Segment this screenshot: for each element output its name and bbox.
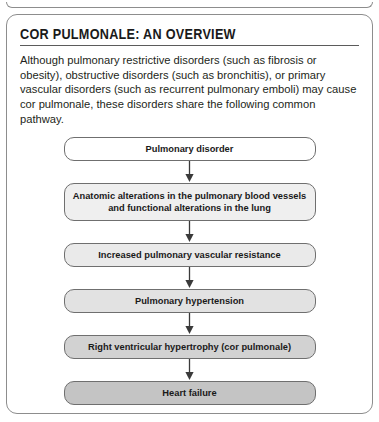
previous-card-bottom-edge xyxy=(6,2,373,8)
flow-row-6: Heart failure xyxy=(7,381,372,405)
intro-paragraph: Although pulmonary restrictive disorders… xyxy=(20,53,359,126)
flow-row-5: Right ventricular hypertrophy (cor pulmo… xyxy=(7,335,372,359)
flow-node-pulmonary-disorder: Pulmonary disorder xyxy=(64,137,316,161)
flow-row-4: Pulmonary hypertension xyxy=(7,289,372,313)
flow-node-heart-failure: Heart failure xyxy=(64,381,316,405)
flow-arrow-3 xyxy=(7,267,372,289)
flow-node-anatomic-alterations: Anatomic alterations in the pulmonary bl… xyxy=(64,183,316,221)
page-title: COR PULMONALE: AN OVERVIEW xyxy=(20,26,318,42)
pathway-flowchart: Pulmonary disorder Anatomic alterations … xyxy=(7,137,372,405)
flow-row-2: Anatomic alterations in the pulmonary bl… xyxy=(7,183,372,221)
flow-arrow-5 xyxy=(7,359,372,381)
flow-arrow-2 xyxy=(7,221,372,243)
flow-row-1: Pulmonary disorder xyxy=(7,137,372,161)
flow-arrow-1 xyxy=(7,161,372,183)
flow-node-pulmonary-hypertension: Pulmonary hypertension xyxy=(64,289,316,313)
flow-node-increased-vascular-resistance: Increased pulmonary vascular resistance xyxy=(64,243,316,267)
overview-card: COR PULMONALE: AN OVERVIEW Although pulm… xyxy=(6,14,373,414)
title-divider xyxy=(20,45,359,46)
flow-node-right-ventricular-hypertrophy: Right ventricular hypertrophy (cor pulmo… xyxy=(64,335,316,359)
flow-row-3: Increased pulmonary vascular resistance xyxy=(7,243,372,267)
flow-arrow-4 xyxy=(7,313,372,335)
